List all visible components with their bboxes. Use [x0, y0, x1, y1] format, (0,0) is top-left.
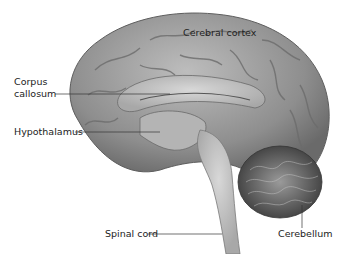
- label-cerebral-cortex: Cerebral cortex: [183, 27, 256, 38]
- label-corpus-callosum-line1: Corpus: [14, 76, 47, 87]
- label-hypothalamus: Hypothalamus: [14, 126, 83, 137]
- label-cerebellum: Cerebellum: [278, 228, 332, 239]
- cerebellum: [238, 146, 322, 218]
- label-spinal-cord: Spinal cord: [105, 228, 158, 239]
- label-corpus-callosum-line2: callosum: [14, 88, 56, 99]
